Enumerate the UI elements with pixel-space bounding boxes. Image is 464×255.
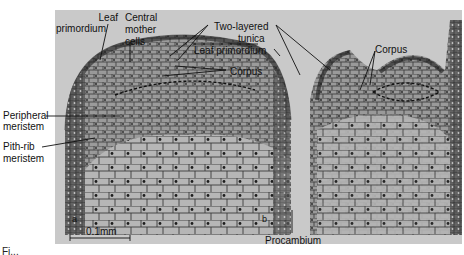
leader-tunica-right [276, 25, 330, 75]
label-peripheral: Peripheral [3, 110, 49, 121]
panel-marker-b: b [262, 214, 267, 225]
leader-lines [0, 0, 464, 255]
label-peripheral-meristem: meristem [3, 121, 44, 132]
leader-corpus-right [360, 51, 375, 90]
label-central-mother-cells-1: Central [125, 12, 157, 23]
label-central-mother-cells-3: cells [125, 36, 145, 47]
label-two-layered: Two-layered [214, 21, 268, 32]
leader-pith-rib-meristem [42, 138, 95, 147]
label-pith-rib: Pith-rib [3, 141, 35, 152]
label-procambium: Procambium [265, 235, 321, 246]
label-leaf-primordium-left-2: primordium [56, 23, 106, 34]
leader-corpus-left [162, 66, 226, 76]
label-tunica: tunica [238, 33, 265, 44]
label-leaf-primordium-right: Leaf primordium [194, 45, 266, 56]
panel-marker-a: a [72, 214, 77, 225]
figure-caption-fragment: Fi... [2, 246, 19, 255]
label-leaf-primordium-left-1: Leaf [88, 12, 118, 23]
leader-leaf-primordium-right [274, 49, 280, 56]
label-corpus-left: Corpus [230, 66, 262, 77]
scale-bar-label: 0.1mm [86, 226, 117, 237]
label-pith-rib-meristem: meristem [3, 153, 44, 164]
figure: Leaf primordium Central mother cells Two… [0, 0, 464, 255]
label-central-mother-cells-2: mother [125, 24, 156, 35]
label-corpus-right: Corpus [375, 44, 407, 55]
